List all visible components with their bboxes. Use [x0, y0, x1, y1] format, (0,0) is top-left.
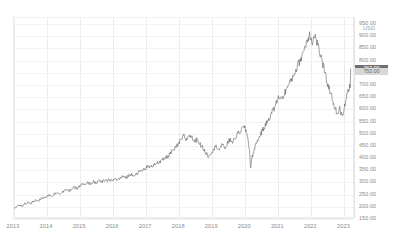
y-tick-850: 850.00	[359, 44, 376, 50]
y-tick-900: 900.00	[359, 32, 376, 38]
x-tick-2014: 2014	[40, 223, 53, 230]
x-tick-2017: 2017	[139, 223, 152, 230]
y-tick-550: 550.00	[359, 118, 376, 124]
y-axis: USD 950.00900.00850.00800.00750.00700.00…	[354, 17, 402, 218]
x-tick-2013: 2013	[7, 223, 20, 230]
y-tick-600: 600.00	[359, 105, 376, 111]
y-tick-150: 150.00	[359, 215, 376, 221]
x-tick-2022: 2022	[304, 223, 317, 230]
gridline-h-150	[14, 219, 353, 220]
price-line	[14, 32, 351, 208]
x-tick-2020: 2020	[238, 223, 251, 230]
x-tick-2016: 2016	[106, 223, 119, 230]
x-axis-spine	[13, 218, 354, 219]
y-tick-350: 350.00	[359, 166, 376, 172]
x-tick-2015: 2015	[73, 223, 86, 230]
x-tick-2019: 2019	[205, 223, 218, 230]
y-tick-500: 500.00	[359, 130, 376, 136]
y-tick-950: 950.00	[359, 20, 376, 26]
secondary-price-tag: 750.00	[355, 68, 388, 75]
y-tick-200: 200.00	[359, 203, 376, 209]
y-tick-250: 250.00	[359, 191, 376, 197]
y-tick-450: 450.00	[359, 142, 376, 148]
x-tick-2023: 2023	[337, 223, 350, 230]
plot-area	[13, 17, 354, 218]
y-tick-300: 300.00	[359, 178, 376, 184]
y-tick-650: 650.00	[359, 93, 376, 99]
y-axis-spine	[13, 17, 14, 218]
y-tick-800: 800.00	[359, 57, 376, 63]
y-tick-400: 400.00	[359, 154, 376, 160]
price-chart: USD 950.00900.00850.00800.00750.00700.00…	[0, 0, 402, 249]
y-tick-700: 700.00	[359, 81, 376, 87]
x-tick-2018: 2018	[172, 223, 185, 230]
price-line-series	[14, 18, 353, 217]
x-tick-2021: 2021	[271, 223, 284, 230]
